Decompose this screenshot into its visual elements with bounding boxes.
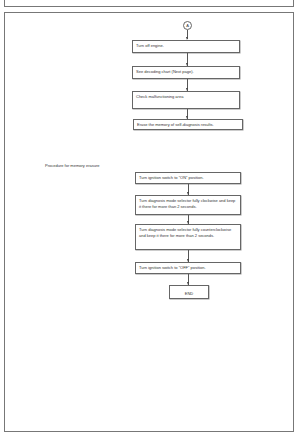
procedure-title: Procedure for memory erasure (45, 163, 99, 168)
step-end: END (169, 285, 209, 299)
step-turn-off-engine: Turn off engine. (132, 40, 240, 53)
step-check-malfunctioning-area: Check malfunctioning area (132, 91, 240, 109)
step-ignition-on: Turn ignition switch to "ON" position. (135, 172, 241, 184)
previous-page-frame (4, 0, 294, 7)
step-erase-memory: Erase the memory of self-diagnosis resul… (133, 119, 243, 130)
step-see-decoding-chart: See decoding chart (Next page). (132, 66, 240, 79)
connector-a: A (183, 21, 192, 30)
step-selector-clockwise: Turn diagnosis mode selector fully clock… (135, 195, 241, 215)
step-ignition-off: Turn ignition switch to "OFF" position. (135, 262, 241, 274)
step-selector-counterclockwise: Turn diagnosis mode selector fully count… (135, 224, 241, 250)
